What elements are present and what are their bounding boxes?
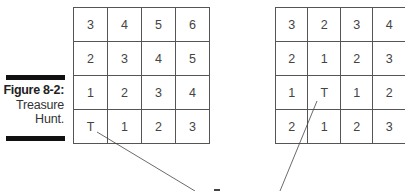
callout-line-left xyxy=(97,132,195,191)
callout-lines xyxy=(0,0,405,191)
callout-line-right xyxy=(280,101,317,191)
cropped-callout-text xyxy=(214,189,220,191)
